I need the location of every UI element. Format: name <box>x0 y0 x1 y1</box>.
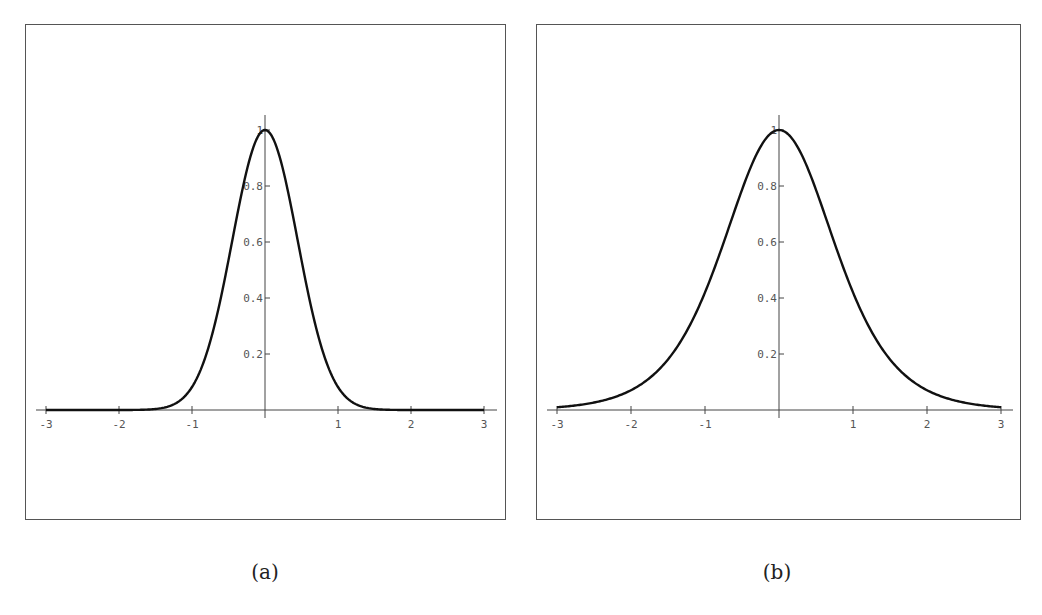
caption-a: (a) <box>251 560 279 584</box>
y-tick-label: 0.2 <box>243 348 263 361</box>
x-tick-label: -2 <box>112 418 125 431</box>
x-tick-label: -3 <box>39 418 52 431</box>
chart-b-plot: -3-2-11230.20.40.60.81 <box>537 25 1022 521</box>
caption-b: (b) <box>763 560 791 584</box>
x-tick-label: 2 <box>408 418 415 431</box>
x-tick-label: -2 <box>624 418 637 431</box>
y-tick-label: 0.4 <box>757 292 777 305</box>
y-tick-label: 0.8 <box>243 180 263 193</box>
chart-panel-a: -3-2-11230.20.40.60.81 <box>25 24 506 520</box>
chart-a-plot: -3-2-11230.20.40.60.81 <box>26 25 507 521</box>
y-tick-label: 0.6 <box>757 236 777 249</box>
x-tick-label: -1 <box>698 418 711 431</box>
x-tick-label: -3 <box>550 418 563 431</box>
x-tick-label: 1 <box>850 418 857 431</box>
x-tick-label: 3 <box>998 418 1005 431</box>
x-tick-label: 2 <box>924 418 931 431</box>
y-tick-label: 0.8 <box>757 180 777 193</box>
x-tick-label: 3 <box>481 418 488 431</box>
y-tick-label: 0.2 <box>757 348 777 361</box>
chart-panel-b: -3-2-11230.20.40.60.81 <box>536 24 1021 520</box>
y-tick-label: 0.6 <box>243 236 263 249</box>
x-tick-label: 1 <box>335 418 342 431</box>
y-tick-label: 0.4 <box>243 292 263 305</box>
x-tick-label: -1 <box>185 418 198 431</box>
